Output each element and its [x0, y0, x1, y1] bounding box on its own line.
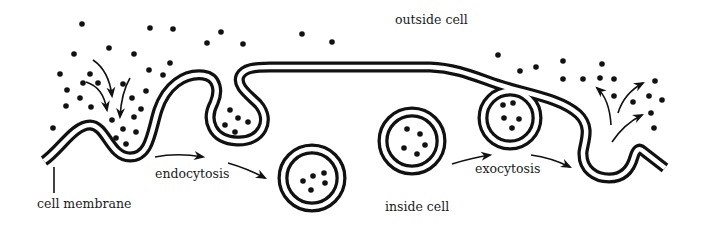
diagram-canvas: outside cell inside cell cell membrane e… — [0, 0, 703, 228]
molecule-dot — [516, 116, 522, 122]
vesicle-gap — [383, 112, 441, 170]
molecule-dot — [167, 60, 173, 66]
molecule-dot — [611, 76, 617, 82]
molecule-dot — [329, 39, 335, 45]
molecule-dot — [651, 125, 657, 131]
molecule-dot — [123, 141, 129, 147]
endocytosis-label: endocytosis — [155, 166, 229, 181]
release-arrow-2 — [618, 83, 643, 113]
molecule-dot — [77, 95, 83, 101]
cell-membrane-label: cell membrane — [37, 196, 131, 211]
molecule-dot — [64, 87, 70, 93]
molecule-dot — [170, 26, 176, 32]
molecule-dot — [240, 41, 246, 47]
molecule-dot — [299, 31, 305, 37]
molecule-dot — [50, 125, 56, 131]
molecule-dot — [87, 71, 93, 77]
molecule-dot — [652, 78, 658, 84]
molecule-dot — [648, 110, 654, 116]
outside-cell-label: outside cell — [395, 12, 468, 27]
molecule-dot — [133, 129, 139, 135]
molecule-dot — [146, 67, 152, 73]
molecule-dots — [50, 21, 665, 147]
inside-cell-label: inside cell — [385, 199, 449, 214]
molecule-dot — [222, 122, 228, 128]
molecule-dot — [630, 99, 636, 105]
molecule-dot — [495, 52, 501, 58]
molecule-dot — [501, 115, 507, 121]
molecule-dot — [131, 51, 137, 57]
molecule-dot — [109, 117, 115, 123]
molecule-dot — [138, 106, 144, 112]
molecule-dot — [160, 72, 166, 78]
free-vesicle-inside — [383, 112, 441, 170]
molecule-dot — [71, 51, 77, 57]
free-vesicle-endocytosis — [283, 149, 341, 207]
molecule-dot — [659, 97, 665, 103]
endocytosis-exocytosis-diagram: outside cell inside cell cell membrane e… — [0, 0, 703, 228]
molecule-dot — [404, 126, 410, 132]
molecule-dot — [509, 125, 515, 131]
molecule-dot — [321, 170, 327, 176]
molecule-dot — [533, 64, 539, 70]
molecule-dot — [147, 25, 153, 31]
molecule-dot — [560, 58, 566, 64]
molecule-dot — [80, 80, 86, 86]
molecule-dot — [143, 88, 149, 94]
molecule-dot — [414, 151, 420, 157]
membrane-vesicle-gap — [483, 91, 537, 145]
molecule-dot — [95, 80, 101, 86]
molecule-dot — [63, 103, 69, 109]
endocytosis-arrow-1 — [155, 155, 203, 157]
molecule-dot — [88, 104, 94, 110]
molecule-dot — [510, 100, 516, 106]
molecule-dot — [204, 40, 210, 46]
molecule-dot — [597, 75, 603, 81]
molecule-dot — [300, 178, 306, 184]
molecule-dot — [308, 187, 314, 193]
molecule-dot — [57, 71, 63, 77]
molecule-dot — [599, 61, 605, 67]
molecule-dot — [129, 95, 135, 101]
molecule-dot — [310, 173, 316, 179]
free-vesicles — [283, 112, 441, 207]
molecule-dot — [113, 135, 119, 141]
molecule-dot — [517, 68, 523, 74]
release-arrow-3 — [612, 115, 642, 142]
molecule-dot — [560, 76, 566, 82]
molecule-dot — [417, 131, 423, 137]
molecule-dot — [500, 102, 506, 108]
molecule-dot — [131, 114, 137, 120]
molecule-dot — [106, 45, 112, 51]
molecule-dot — [422, 142, 428, 148]
exocytosis-label: exocytosis — [475, 161, 540, 176]
molecule-dot — [401, 145, 407, 151]
molecule-dot — [611, 93, 617, 99]
molecule-dot — [120, 81, 126, 87]
molecule-dot — [646, 93, 652, 99]
molecule-dot — [79, 21, 85, 27]
movement-arrows — [86, 60, 643, 178]
molecule-dot — [218, 29, 224, 35]
molecule-dot — [245, 119, 251, 125]
molecule-dot — [227, 107, 233, 113]
molecule-dot — [322, 180, 328, 186]
molecule-dot — [235, 115, 241, 121]
molecule-dot — [232, 129, 238, 135]
release-arrow-1 — [597, 88, 611, 125]
cell-membrane — [44, 67, 665, 178]
molecule-dot — [120, 126, 126, 132]
membrane-outer-stroke — [44, 67, 665, 178]
endocytosis-arrow-2 — [228, 163, 265, 178]
molecule-dot — [580, 76, 586, 82]
influx-arrow-1 — [93, 60, 112, 96]
